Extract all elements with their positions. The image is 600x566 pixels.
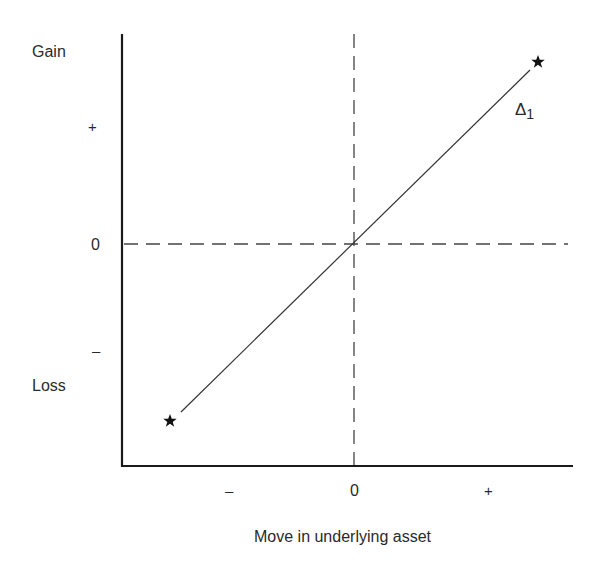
y-tick-zero: 0 [91,236,100,254]
x-axis-title: Move in underlying asset [254,528,431,546]
star-marker-bottom-left-icon [163,414,176,427]
y-tick-plus: + [88,119,97,135]
gain-label: Gain [32,43,66,61]
delta-1-label: Δ1 [515,100,534,122]
delta-payoff-diagram: Gain + 0 – Loss Δ1 – 0 + Move in underly… [0,0,600,566]
diagram-canvas [0,0,600,566]
x-tick-minus: – [225,483,233,499]
y-tick-minus: – [92,343,100,359]
delta-1-line [181,70,530,412]
x-tick-zero: 0 [350,482,359,500]
star-marker-top-right-icon [531,55,544,68]
delta-symbol: Δ [515,100,526,119]
delta-subscript: 1 [526,106,534,122]
loss-label: Loss [32,377,66,395]
x-tick-plus: + [484,483,493,499]
